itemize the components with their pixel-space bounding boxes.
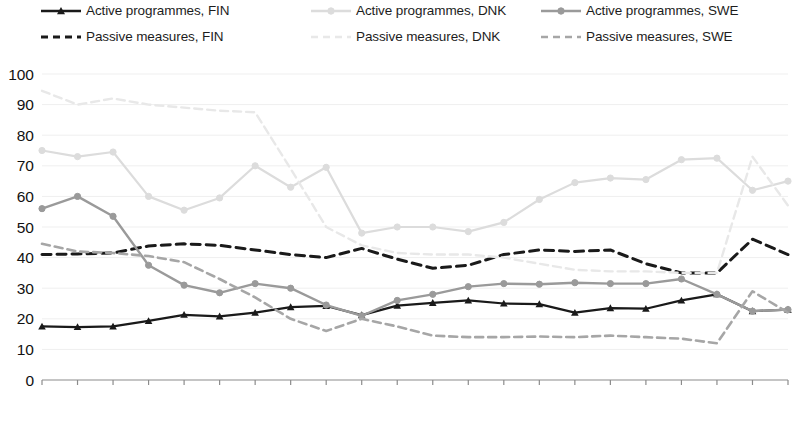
data-point bbox=[145, 193, 151, 199]
data-point bbox=[643, 281, 649, 287]
data-point bbox=[74, 193, 80, 199]
y-axis-tick-label: 10 bbox=[17, 341, 35, 358]
chart-legend: Active programmes, FIN Active programmes… bbox=[0, 0, 800, 56]
data-point bbox=[252, 163, 258, 169]
data-point bbox=[110, 213, 116, 219]
data-point bbox=[288, 285, 294, 291]
data-point bbox=[430, 224, 436, 230]
series-active_dnk bbox=[39, 147, 791, 236]
series-line-active_dnk bbox=[42, 151, 788, 234]
legend-swatch-active-swe bbox=[540, 4, 582, 18]
y-axis-tick-label: 40 bbox=[17, 249, 35, 266]
y-axis-tick-label: 50 bbox=[17, 219, 35, 236]
data-point bbox=[465, 284, 471, 290]
data-point bbox=[465, 228, 471, 234]
x-axis bbox=[42, 380, 788, 385]
data-point bbox=[749, 308, 755, 314]
y-axis-tick-label: 80 bbox=[17, 127, 35, 144]
data-point bbox=[607, 281, 613, 287]
legend-label-active-fin: Active programmes, FIN bbox=[86, 4, 229, 18]
data-point bbox=[288, 184, 294, 190]
y-axis-tick-label: 60 bbox=[17, 188, 35, 205]
legend-item-active-swe[interactable]: Active programmes, SWE bbox=[540, 4, 738, 18]
legend-swatch-passive-swe bbox=[540, 30, 582, 44]
legend-label-active-dnk: Active programmes, DNK bbox=[356, 4, 506, 18]
data-point bbox=[39, 206, 45, 212]
data-point bbox=[394, 297, 400, 303]
data-point bbox=[39, 147, 45, 153]
data-point bbox=[678, 157, 684, 163]
data-point bbox=[607, 175, 613, 181]
legend-label-passive-swe: Passive measures, SWE bbox=[586, 30, 732, 44]
data-point bbox=[678, 276, 684, 282]
legend-swatch-active-dnk bbox=[310, 4, 352, 18]
y-axis-tick-label: 20 bbox=[17, 310, 35, 327]
data-point bbox=[110, 149, 116, 155]
data-point bbox=[714, 155, 720, 161]
data-point bbox=[714, 291, 720, 297]
legend-label-active-swe: Active programmes, SWE bbox=[586, 4, 738, 18]
data-point bbox=[145, 262, 151, 268]
data-point bbox=[252, 281, 258, 287]
data-point bbox=[359, 230, 365, 236]
legend-swatch-passive-fin bbox=[40, 30, 82, 44]
legend-item-passive-fin[interactable]: Passive measures, FIN bbox=[40, 30, 223, 44]
data-point bbox=[572, 180, 578, 186]
data-point bbox=[536, 196, 542, 202]
legend-label-passive-dnk: Passive measures, DNK bbox=[356, 30, 500, 44]
series-line-active_fin bbox=[42, 294, 788, 327]
series-passive_swe bbox=[42, 244, 788, 343]
data-point bbox=[74, 154, 80, 160]
data-point bbox=[572, 280, 578, 286]
legend-swatch-active-fin bbox=[40, 4, 82, 18]
data-point bbox=[501, 219, 507, 225]
legend-item-active-fin[interactable]: Active programmes, FIN bbox=[40, 4, 229, 18]
legend-swatch-passive-dnk bbox=[310, 30, 352, 44]
y-axis-tick-label: 30 bbox=[17, 280, 35, 297]
data-point bbox=[785, 178, 791, 184]
data-point bbox=[394, 224, 400, 230]
data-point bbox=[749, 187, 755, 193]
data-point bbox=[536, 281, 542, 287]
data-point bbox=[643, 176, 649, 182]
data-point bbox=[181, 282, 187, 288]
data-point bbox=[217, 290, 223, 296]
legend-item-active-dnk[interactable]: Active programmes, DNK bbox=[310, 4, 506, 18]
data-point bbox=[217, 195, 223, 201]
data-point bbox=[501, 281, 507, 287]
data-point bbox=[181, 207, 187, 213]
chart-svg: 0102030405060708090100200020012002200320… bbox=[0, 56, 800, 436]
y-axis-tick-label: 90 bbox=[17, 96, 35, 113]
legend-label-passive-fin: Passive measures, FIN bbox=[86, 30, 223, 44]
y-axis-tick-label: 70 bbox=[17, 157, 35, 174]
y-axis-tick-label: 100 bbox=[8, 66, 34, 83]
series-line-passive_swe bbox=[42, 244, 788, 343]
plot-area: 0102030405060708090100200020012002200320… bbox=[0, 56, 800, 436]
data-point bbox=[323, 164, 329, 170]
y-axis-tick-label: 0 bbox=[25, 372, 34, 389]
data-point bbox=[430, 291, 436, 297]
data-point bbox=[323, 302, 329, 308]
chart-container: Active programmes, FIN Active programmes… bbox=[0, 0, 800, 436]
legend-item-passive-swe[interactable]: Passive measures, SWE bbox=[540, 30, 732, 44]
legend-item-passive-dnk[interactable]: Passive measures, DNK bbox=[310, 30, 500, 44]
